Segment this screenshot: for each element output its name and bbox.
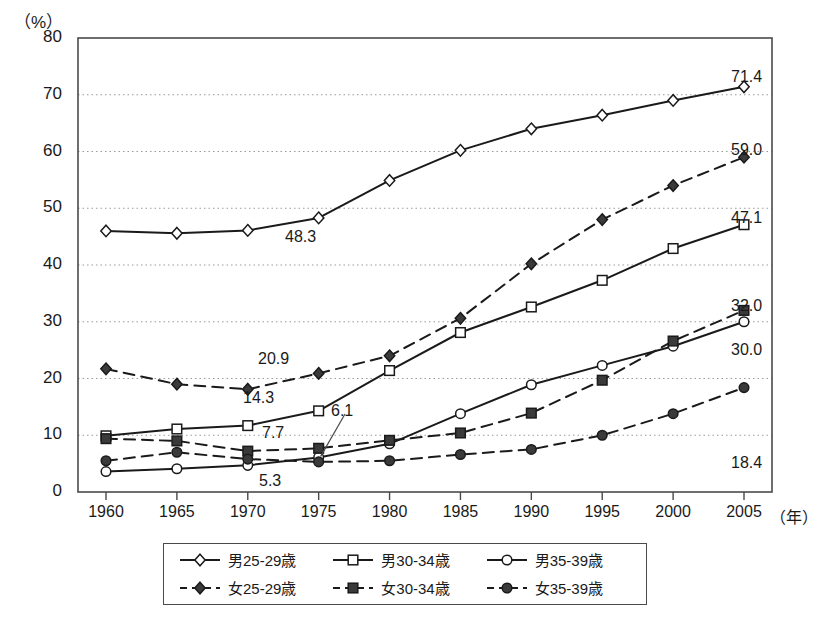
legend-key-open-circle-solid [485,553,529,567]
series-5 [101,306,749,456]
y-tick-30: 30 [16,311,62,331]
legend-key-filled-circle-dashed [485,581,529,595]
x-tick-1990: 1990 [501,503,561,521]
y-tick-70: 70 [16,84,62,104]
series-4 [101,151,749,395]
value-label-18-4: 18.4 [731,454,762,472]
x-tick-1980: 1980 [360,503,420,521]
legend-item-6[interactable]: 女35-39歳 [485,581,638,596]
x-tick-1970: 1970 [218,503,278,521]
value-label-30-0: 30.0 [731,341,762,359]
x-tick-1975: 1975 [289,503,349,521]
y-tick-60: 60 [16,141,62,161]
value-label-14-3: 14.3 [243,389,274,407]
value-label-7-7: 7.7 [262,424,284,442]
value-label-5-3: 5.3 [259,472,281,490]
y-tick-0: 0 [16,481,62,501]
value-label-47-1: 47.1 [731,209,762,227]
legend-key-open-diamond-solid [178,553,222,567]
legend-item-1[interactable]: 男25-29歳 [178,553,331,568]
legend-item-5[interactable]: 女30-34歳 [331,581,484,596]
value-label-71-4: 71.4 [731,68,762,86]
series-6 [101,383,749,467]
legend: 男25-29歳男30-34歳男35-39歳女25-29歳女30-34歳女35-3… [163,543,647,605]
x-tick-2005: 2005 [714,503,774,521]
value-label-48-3: 48.3 [285,228,316,246]
legend-key-filled-diamond-dashed [178,581,222,595]
y-tick-80: 80 [16,27,62,47]
series-1 [101,81,749,239]
y-tick-40: 40 [16,254,62,274]
y-tick-50: 50 [16,197,62,217]
value-label-59-0: 59.0 [731,141,762,159]
legend-item-2[interactable]: 男30-34歳 [331,553,484,568]
y-tick-10: 10 [16,424,62,444]
x-tick-1985: 1985 [430,503,490,521]
legend-item-3[interactable]: 男35-39歳 [485,553,638,568]
series-2 [101,220,749,441]
value-label-20-9: 20.9 [258,350,289,368]
value-label-32-0: 32.0 [731,297,762,315]
legend-label: 女25-29歳 [228,581,296,596]
plot-area [0,0,825,624]
value-label-6-1: 6.1 [331,402,353,420]
chart-figure: （%） （年） 80706050403020100 19601965197019… [0,0,825,624]
legend-label: 男25-29歳 [228,553,296,568]
legend-key-open-square-solid [331,553,375,567]
legend-label: 女30-34歳 [381,581,449,596]
legend-key-filled-square-dashed [331,581,375,595]
legend-item-4[interactable]: 女25-29歳 [178,581,331,596]
x-tick-1965: 1965 [147,503,207,521]
legend-label: 女35-39歳 [535,581,603,596]
x-tick-1960: 1960 [76,503,136,521]
x-tick-2000: 2000 [643,503,703,521]
legend-label: 男35-39歳 [535,553,603,568]
series-3 [101,317,749,476]
legend-label: 男30-34歳 [381,553,449,568]
y-tick-20: 20 [16,368,62,388]
x-tick-1995: 1995 [572,503,632,521]
